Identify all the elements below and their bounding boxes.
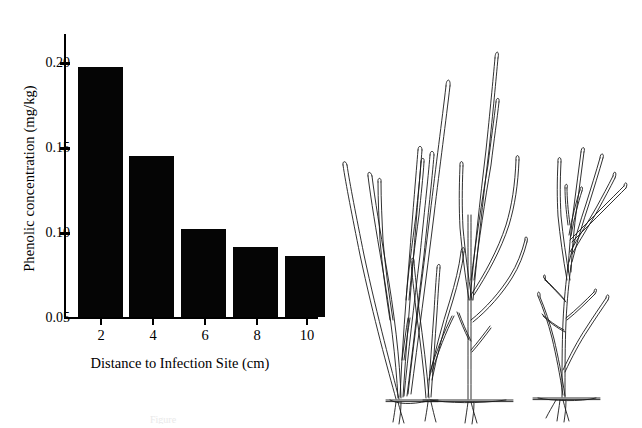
bar-0 [78,67,123,317]
y-tick-label-3: 0.05 [26,311,70,325]
bar-3 [233,247,278,317]
plant-illustration-svg [338,0,642,428]
x-tick-label-1: 4 [138,327,168,343]
plant-specimen-middle [411,52,528,424]
clipped-caption: Figure [150,414,380,424]
bar-4 [285,256,325,317]
y-axis-title: Phenolic concentration (mg/kg) [21,39,38,319]
x-tick-label-2: 6 [190,327,220,343]
bar-2 [181,229,226,317]
y-tick-mark-2 [60,232,70,235]
x-tick-label-4: 10 [292,327,322,343]
x-axis-title: Distance to Infection Site (cm) [35,355,325,372]
x-tick-mark-1 [152,318,154,325]
y-tick-mark-0 [60,62,70,65]
x-axis-line [64,317,318,319]
x-tick-label-3: 8 [242,327,272,343]
x-tick-mark-2 [204,318,206,325]
bar-chart: Phenolic concentration (mg/kg) 0.20 0.15… [0,0,340,400]
x-tick-mark-0 [100,318,102,325]
y-tick-3: 0.05 [0,311,70,325]
x-tick-label-0: 2 [86,327,116,343]
x-tick-mark-4 [306,318,308,325]
plant-specimen-right [533,148,627,423]
plant-specimen-left [343,80,450,424]
y-axis-line [64,34,66,319]
x-tick-mark-3 [256,318,258,325]
y-tick-mark-1 [60,147,70,150]
figure-root: Phenolic concentration (mg/kg) 0.20 0.15… [0,0,642,428]
plant-illustration [338,0,642,428]
bar-1 [129,156,174,318]
